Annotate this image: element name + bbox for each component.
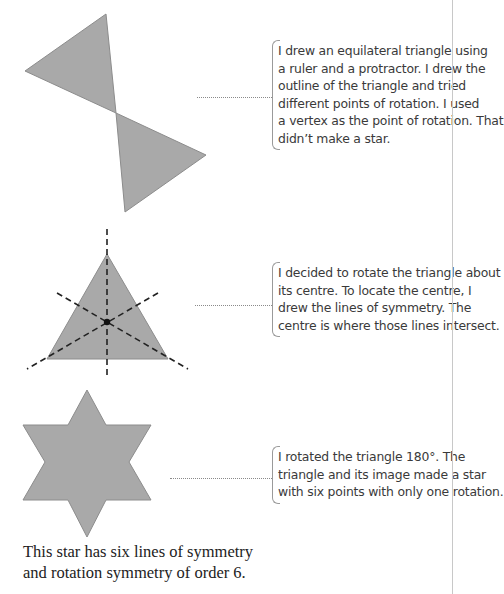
callout-line: with six points with only one rotation. [278, 483, 504, 501]
callout-line: triangle and its image made a star [278, 466, 504, 484]
triangle-original [25, 14, 116, 113]
connector-1 [197, 97, 272, 98]
connector-2 [195, 305, 272, 306]
centre-point [104, 319, 110, 325]
callout-star-result: I rotated the triangle 180°. The triangl… [272, 448, 504, 501]
triangle-rotated-about-vertex [116, 113, 206, 212]
callout-bracket [272, 446, 280, 504]
callout-line: a vertex as the point of rotation. That [278, 112, 503, 130]
callout-line: its centre. To locate the centre, I [278, 282, 500, 300]
callout-line: I drew an equilateral triangle using [278, 42, 503, 60]
callout-line: outline of the triangle and tried [278, 77, 503, 95]
callout-line: centre is where those lines intersect. [278, 317, 500, 335]
callout-bracket [272, 262, 280, 337]
caption-line: and rotation symmetry of order 6. [23, 563, 253, 584]
connector-3 [170, 478, 272, 479]
callout-line: drew the lines of symmetry. The [278, 299, 500, 317]
star-figure [23, 390, 151, 537]
bowtie-figure [25, 14, 206, 212]
six-point-star [23, 390, 151, 537]
callout-line: different points of rotation. I used [278, 95, 503, 113]
callout-line: didn’t make a star. [278, 130, 503, 148]
triangle-symmetry-figure [27, 229, 188, 377]
callout-line: I rotated the triangle 180°. The [278, 448, 504, 466]
page-margin-rule [452, 0, 453, 594]
star-caption: This star has six lines of symmetry and … [23, 542, 253, 583]
callout-vertex-rotation: I drew an equilateral triangle using a r… [272, 42, 503, 147]
callout-centre-rotation: I decided to rotate the triangle about i… [272, 264, 500, 334]
caption-line: This star has six lines of symmetry [23, 542, 253, 563]
callout-line: a ruler and a protractor. I drew the [278, 60, 503, 78]
callout-bracket [272, 40, 280, 150]
callout-line: I decided to rotate the triangle about [278, 264, 500, 282]
